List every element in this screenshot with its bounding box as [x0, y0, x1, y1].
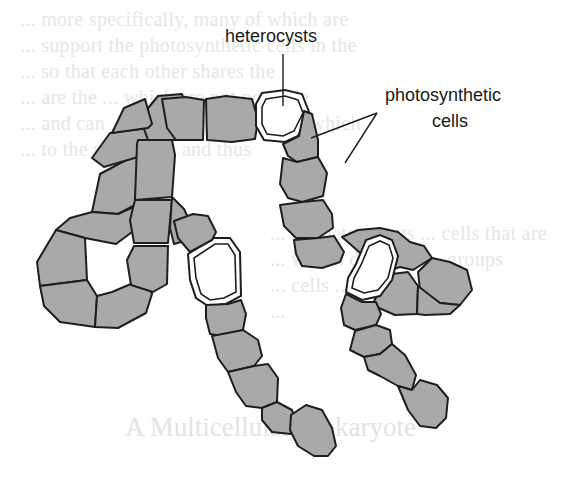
- leader-line-photosynthetic-1: [311, 113, 377, 138]
- photosynthetic-cell: [127, 246, 168, 292]
- photosynthetic-cell: [112, 99, 152, 133]
- photosynthetic-cell: [40, 280, 97, 327]
- photosynthetic-cell: [130, 200, 172, 243]
- photosynthetic-cell: [37, 230, 87, 286]
- photosynthetic-cell: [206, 96, 258, 142]
- label-photosynthetic-line1: photosynthetic: [385, 85, 501, 105]
- label-photosynthetic-line2: cells: [432, 111, 468, 131]
- photosynthetic-cell: [398, 380, 448, 428]
- leader-line-photosynthetic-2: [345, 113, 377, 163]
- photosynthetic-cell: [290, 405, 336, 456]
- diagram-canvas: ... more specifically, many of which are…: [0, 0, 580, 479]
- photosynthetic-cell: [280, 157, 327, 202]
- photosynthetic-cell: [294, 236, 344, 268]
- top-arch-filament: [162, 96, 258, 142]
- label-heterocysts: heterocysts: [225, 26, 317, 46]
- photosynthetic-cell: [228, 364, 278, 408]
- photosynthetic-cell: [135, 140, 175, 200]
- photosynthetic-cell: [280, 200, 333, 238]
- cyanobacteria-filament-diagram: heterocysts photosynthetic cells: [0, 0, 580, 479]
